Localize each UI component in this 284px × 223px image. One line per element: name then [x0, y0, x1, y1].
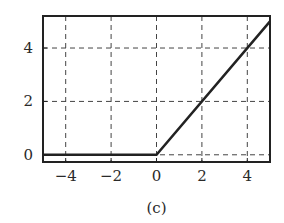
y-tick-label: 2: [23, 92, 33, 110]
y-tick-label: 4: [23, 39, 33, 57]
chart-caption: (c): [146, 199, 166, 217]
x-tick-label: −4: [55, 167, 77, 185]
y-tick-label: 0: [23, 146, 33, 164]
x-tick-label: 0: [152, 167, 162, 185]
x-tick-label: −2: [100, 167, 122, 185]
x-tick-label: 2: [197, 167, 207, 185]
relu-chart: −4−2024 024 (c): [0, 0, 284, 223]
grid: [43, 16, 270, 162]
x-tick-label: 4: [243, 167, 253, 185]
